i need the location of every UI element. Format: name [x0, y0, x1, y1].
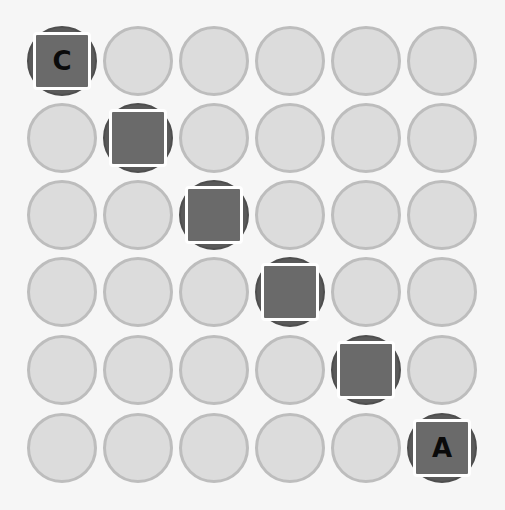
grid-cell-r4-c5[interactable] [331, 257, 401, 327]
grid-cell-r4-c2[interactable] [103, 257, 173, 327]
grid-cell-r1-c3[interactable] [179, 26, 249, 96]
grid-cell-r3-c1[interactable] [27, 180, 97, 250]
grid-cell-r3-c2[interactable] [103, 180, 173, 250]
tile-letter: A [432, 435, 452, 461]
grid-cell-r5-c5[interactable] [331, 335, 401, 405]
grid-cell-r4-c1[interactable] [27, 257, 97, 327]
selected-tile[interactable]: C [33, 32, 91, 90]
grid-cell-r2-c5[interactable] [331, 103, 401, 173]
grid-cell-r6-c3[interactable] [179, 413, 249, 483]
grid-cell-r2-c3[interactable] [179, 103, 249, 173]
selected-tile[interactable] [185, 186, 243, 244]
grid-cell-r1-c5[interactable] [331, 26, 401, 96]
grid-cell-r3-c4[interactable] [255, 180, 325, 250]
grid-cell-r2-c2[interactable] [103, 103, 173, 173]
grid-cell-r2-c4[interactable] [255, 103, 325, 173]
grid-cell-r5-c2[interactable] [103, 335, 173, 405]
grid-cell-r6-c2[interactable] [103, 413, 173, 483]
selected-tile[interactable] [261, 263, 319, 321]
grid-cell-r1-c1[interactable]: C [27, 26, 97, 96]
grid-cell-r5-c6[interactable] [407, 335, 477, 405]
grid-cell-r5-c1[interactable] [27, 335, 97, 405]
grid-cell-r1-c2[interactable] [103, 26, 173, 96]
grid-cell-r5-c4[interactable] [255, 335, 325, 405]
grid-cell-r1-c6[interactable] [407, 26, 477, 96]
grid-cell-r3-c6[interactable] [407, 180, 477, 250]
selected-tile[interactable] [337, 341, 395, 399]
grid-cell-r5-c3[interactable] [179, 335, 249, 405]
grid-cell-r1-c4[interactable] [255, 26, 325, 96]
grid-cell-r4-c4[interactable] [255, 257, 325, 327]
grid-cell-r6-c4[interactable] [255, 413, 325, 483]
grid-cell-r4-c6[interactable] [407, 257, 477, 327]
game-board: CA [0, 0, 505, 510]
selected-tile[interactable]: A [413, 419, 471, 477]
grid-cell-r6-c6[interactable]: A [407, 413, 477, 483]
grid-cell-r3-c5[interactable] [331, 180, 401, 250]
grid-cell-r6-c5[interactable] [331, 413, 401, 483]
selected-tile[interactable] [109, 109, 167, 167]
tile-letter: C [52, 48, 71, 74]
grid-cell-r4-c3[interactable] [179, 257, 249, 327]
grid-cell-r2-c1[interactable] [27, 103, 97, 173]
grid-cell-r2-c6[interactable] [407, 103, 477, 173]
grid-cell-r3-c3[interactable] [179, 180, 249, 250]
grid-cell-r6-c1[interactable] [27, 413, 97, 483]
